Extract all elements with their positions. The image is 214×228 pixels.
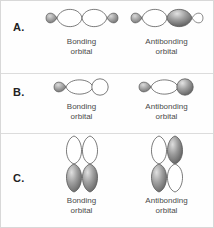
row-a-bonding-orbital-art	[44, 1, 120, 35]
row-a-bonding-caption-line2: orbital	[67, 47, 96, 57]
row-a-bonding-caption: Bonding orbital	[67, 37, 96, 56]
row-a-antibonding-caption: Antibonding orbital	[145, 37, 187, 56]
row-b-antibonding-caption: Antibonding orbital	[145, 102, 187, 121]
orbital-row-a: A.	[1, 1, 213, 73]
row-c-bonding-orbital-art	[59, 134, 105, 194]
row-b-bonding-caption-line1: Bonding	[67, 102, 96, 111]
row-b-bonding-orbital-art	[52, 74, 112, 100]
row-c-antibonding-cell: Antibonding orbital	[124, 134, 209, 227]
row-c-bonding-caption: Bonding orbital	[67, 196, 96, 215]
row-c-bonding-cell: Bonding orbital	[39, 134, 124, 227]
row-b-bonding-caption-line2: orbital	[67, 112, 96, 122]
row-c-bonding-caption-line2: orbital	[67, 206, 96, 216]
row-b-antibonding-orbital-art	[137, 74, 197, 100]
row-b-bonding-cell: Bonding orbital	[39, 74, 124, 133]
orbital-diagram-figure: A.	[0, 0, 214, 228]
s-p-sigma-antibonding-icon	[137, 76, 197, 98]
row-b-antibonding-cell: Antibonding orbital	[124, 74, 209, 133]
row-label-a: A.	[13, 21, 24, 33]
row-b-bonding-caption: Bonding orbital	[67, 102, 96, 121]
orbital-row-c: C.	[1, 133, 213, 227]
row-label-c: C.	[13, 172, 24, 184]
p-p-pi-antibonding-icon	[144, 135, 190, 193]
p-p-pi-bonding-icon	[59, 135, 105, 193]
row-a-antibonding-caption-line1: Antibonding	[145, 37, 187, 46]
row-a-bonding-caption-line1: Bonding	[67, 37, 96, 46]
p-p-sigma-antibonding-icon	[129, 3, 205, 33]
row-b-antibonding-caption-line2: orbital	[145, 112, 187, 122]
row-a-antibonding-caption-line2: orbital	[145, 47, 187, 57]
s-p-sigma-bonding-icon	[52, 76, 112, 98]
p-p-sigma-bonding-icon	[44, 3, 120, 33]
row-c-bonding-caption-line1: Bonding	[67, 196, 96, 205]
row-c-antibonding-orbital-art	[144, 134, 190, 194]
row-c-antibonding-caption-line1: Antibonding	[145, 196, 187, 205]
row-a-antibonding-orbital-art	[129, 1, 205, 35]
row-label-b: B.	[13, 86, 24, 98]
row-a-bonding-cell: Bonding orbital	[39, 1, 124, 73]
row-c-antibonding-caption-line2: orbital	[145, 206, 187, 216]
row-b-antibonding-caption-line1: Antibonding	[145, 102, 187, 111]
row-c-antibonding-caption: Antibonding orbital	[145, 196, 187, 215]
orbital-row-b: B.	[1, 73, 213, 133]
row-a-antibonding-cell: Antibonding orbital	[124, 1, 209, 73]
